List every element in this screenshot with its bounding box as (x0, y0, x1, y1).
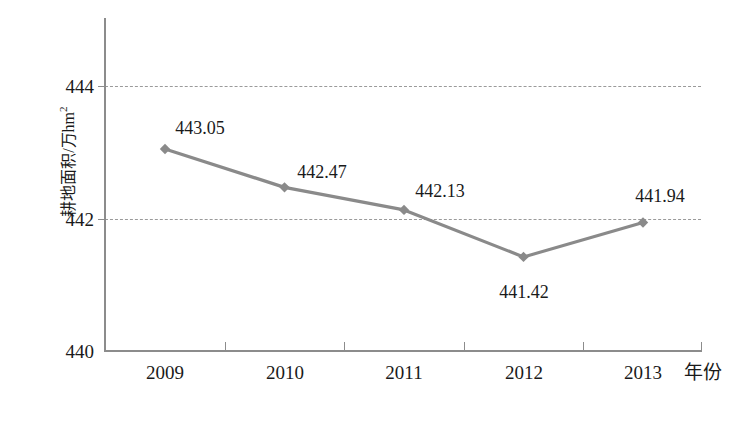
x-tick-label-2009: 2009 (120, 362, 210, 384)
gridline-442 (105, 219, 701, 220)
x-tick-mark-2 (344, 342, 345, 351)
x-tick-mark-1 (225, 342, 226, 351)
x-tick-label-2010: 2010 (240, 362, 330, 384)
y-axis-title-superscript: 2 (57, 106, 69, 112)
y-tick-label-442-wrap: 442 (0, 210, 94, 229)
data-point-2011 (399, 205, 409, 215)
point-label-2011: 442.13 (380, 181, 500, 201)
x-axis-title: 年份 (684, 362, 722, 384)
y-tick-mark-444 (98, 86, 106, 87)
x-axis-line (104, 350, 702, 352)
data-point-2010 (279, 182, 289, 192)
point-label-2010: 442.47 (262, 162, 382, 182)
x-tick-label-2013: 2013 (598, 362, 688, 384)
x-tick-mark-5 (701, 342, 702, 351)
series-polyline (165, 149, 643, 257)
y-tick-label-444-wrap: 444 (0, 77, 94, 96)
y-axis-line (104, 18, 106, 352)
series-markers (160, 144, 648, 262)
data-point-2012 (518, 252, 528, 262)
y-tick-mark-442 (98, 219, 106, 220)
y-axis-title-text: 耕地面积/万hm (60, 112, 77, 217)
chart-figure: 444 442 440 2009 2010 2011 2012 2013 年份 … (0, 0, 738, 429)
point-label-2009: 443.05 (140, 118, 260, 138)
y-axis-title: 耕地面积/万hm2 (54, 62, 77, 262)
x-tick-label-2012: 2012 (479, 362, 569, 384)
gridline-444 (105, 86, 701, 87)
x-tick-label-2011: 2011 (359, 362, 449, 384)
point-label-2013: 441.94 (600, 186, 720, 206)
y-tick-label-440: 440 (32, 342, 94, 361)
x-tick-mark-0 (105, 342, 106, 351)
point-label-2012: 441.42 (464, 282, 584, 302)
x-tick-mark-3 (464, 342, 465, 351)
y-tick-label-440-wrap: 440 (0, 342, 94, 361)
data-point-2009 (160, 144, 170, 154)
x-tick-mark-4 (583, 342, 584, 351)
